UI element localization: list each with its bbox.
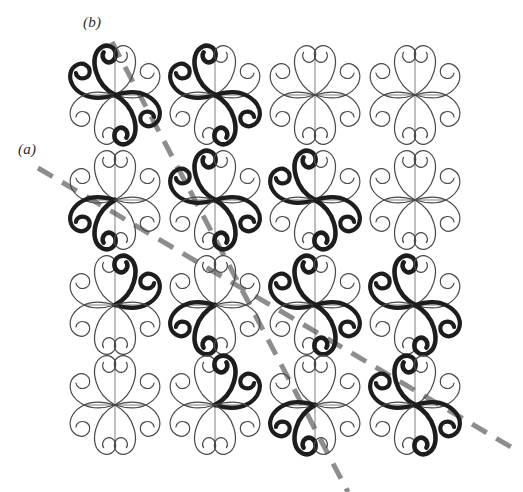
- motif-arm-outer-lower-left: [86, 305, 129, 357]
- figure-canvas: [0, 0, 523, 492]
- label-a: (a): [18, 141, 36, 158]
- ornament-cell-r2-c0: [66, 253, 164, 357]
- motif-arm-outer-upper-right: [101, 253, 144, 305]
- ornament-cell-r0-c2: [266, 43, 364, 147]
- ornament-cell-r0-c3: [366, 43, 464, 147]
- motif-arm-outer-upper-left: [186, 43, 229, 95]
- motif-arm-outer-lower-left: [186, 305, 229, 357]
- motif-arm-outer-upper-right: [101, 148, 144, 200]
- ornament-cell-r0-c1: [166, 43, 264, 147]
- ornament-cell-r0-c0: [66, 43, 164, 147]
- motif-arm-outer-upper-left: [86, 353, 129, 405]
- motif-arm-outer-lower-left: [186, 405, 229, 457]
- motif-arm-outer-lower-left: [386, 95, 429, 147]
- motif-arm-outer-upper-right: [401, 148, 444, 200]
- motif-arm-outer-lower-right: [401, 305, 444, 357]
- motif-arm-outer-lower-right: [101, 305, 144, 357]
- motif-arm-outer-upper-right: [301, 353, 344, 405]
- motif-arm-outer-lower-right: [201, 405, 244, 457]
- motif-arm-outer-upper-left: [286, 353, 329, 405]
- motif-arm-outer-upper-right: [101, 353, 144, 405]
- ornament-cell-r2-c2: [266, 253, 364, 357]
- motif-arm-outer-lower-right: [401, 405, 444, 457]
- motif-arm-outer-lower-right: [401, 95, 444, 147]
- motif-arm-outer-lower-left: [86, 405, 129, 457]
- motif-arm-outer-lower-left: [386, 200, 429, 252]
- motif-arm-outer-lower-right: [101, 405, 144, 457]
- motif-arm-outer-upper-left: [386, 353, 429, 405]
- motif-arm-outer-lower-right: [201, 95, 244, 147]
- motif-arm-outer-upper-left: [86, 148, 129, 200]
- ornament-cell-r1-c2: [266, 148, 364, 252]
- ornament-lattice-figure: (b) (a): [0, 0, 523, 492]
- ornament-cell-r1-c1: [166, 148, 264, 252]
- motif-arm-outer-upper-left: [286, 43, 329, 95]
- motif-arm-outer-lower-right: [301, 200, 344, 252]
- motif-arm-outer-lower-right: [301, 305, 344, 357]
- ornament-cell-r1-c3: [366, 148, 464, 252]
- motif-arm-outer-upper-left: [386, 253, 429, 305]
- ornament-cell-r1-c0: [66, 148, 164, 252]
- motif-arm-outer-lower-right: [301, 95, 344, 147]
- ornament-cell-r3-c0: [66, 353, 164, 457]
- motif-arm-outer-upper-right: [301, 43, 344, 95]
- ornament-cell-r3-c1: [166, 353, 264, 457]
- motif-arm-outer-lower-right: [101, 95, 144, 147]
- motif-arm-outer-lower-right: [401, 200, 444, 252]
- motif-arm-outer-upper-left: [86, 43, 129, 95]
- motif-arm-outer-upper-left: [386, 43, 429, 95]
- motif-arm-outer-upper-left: [286, 253, 329, 305]
- ornament-grid: [66, 43, 464, 457]
- motif-arm-outer-upper-right: [201, 353, 244, 405]
- label-b: (b): [83, 14, 101, 31]
- motif-arm-outer-upper-right: [401, 43, 444, 95]
- motif-arm-outer-lower-left: [286, 405, 329, 457]
- motif-arm-outer-upper-left: [286, 148, 329, 200]
- motif-arm-outer-lower-left: [86, 200, 129, 252]
- motif-arm-outer-upper-left: [386, 148, 429, 200]
- motif-arm-outer-lower-left: [286, 95, 329, 147]
- ornament-cell-r2-c3: [366, 253, 464, 357]
